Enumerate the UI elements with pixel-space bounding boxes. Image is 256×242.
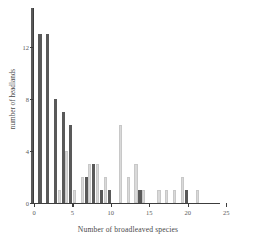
bar [104,177,107,203]
y-tick-label: 8 [20,96,29,103]
bar [157,190,160,203]
x-tick-label: 0 [32,209,35,216]
bar [142,190,145,203]
bar [165,190,168,203]
x-tick-mark [226,203,227,207]
bar [119,125,122,203]
x-tick-mark [111,203,112,207]
y-tick-label: 12 [20,44,29,51]
y-tick-label: 0 [20,200,29,207]
bar [65,151,68,203]
x-tick-mark [188,203,189,207]
bar [81,177,84,203]
bar [134,164,137,203]
y-tick-mark [30,99,34,100]
bar-series-light [34,8,230,203]
x-tick-mark [72,203,73,207]
bar [127,177,130,203]
chart-figure: 0510152025 04812 Number of broadleaved s… [0,0,256,242]
bar [58,190,61,203]
bar [196,190,199,203]
y-tick-mark [30,203,34,204]
bar [73,190,76,203]
x-tick-label: 25 [223,209,230,216]
y-tick-mark [30,47,34,48]
x-tick-mark [34,203,35,207]
y-axis-line [33,8,34,203]
x-axis-title: Number of broadleaved species [0,225,256,234]
bar [96,164,99,203]
plot-area [34,8,230,203]
x-tick-label: 10 [108,209,115,216]
bar [88,164,91,203]
x-tick-label: 15 [146,209,153,216]
y-tick-mark [30,151,34,152]
y-axis-title: number of headlands [9,34,17,164]
x-tick-label: 20 [184,209,191,216]
bar [173,190,176,203]
bar [181,177,184,203]
x-axis-line [34,203,220,204]
x-tick-label: 5 [71,209,74,216]
y-tick-label: 4 [20,148,29,155]
x-tick-mark [149,203,150,207]
